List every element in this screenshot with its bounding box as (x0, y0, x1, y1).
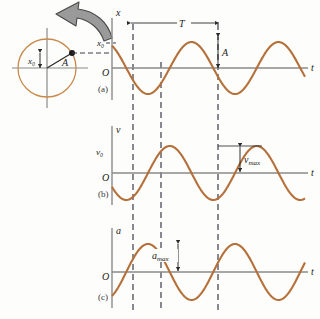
panel-c-origin-label: O (102, 271, 109, 282)
panel-a-x0-label: x₀ (96, 38, 104, 48)
shm-figure: A x₀ x t O x₀ T A (a) v t O (0, 0, 320, 319)
panel-b-y-label: v (116, 124, 121, 135)
panel-c-y-label: a (116, 225, 121, 236)
panel-b-caption: (b) (98, 189, 109, 199)
panel-c-x-label: t (311, 266, 314, 277)
phasor-label: A (61, 57, 69, 68)
amplitude-label: A (221, 47, 229, 58)
panel-b-v0-label: v₀ (96, 147, 103, 157)
x0-circle-label: x₀ (27, 56, 35, 66)
panel-a-origin-label: O (102, 67, 109, 78)
panel-a-x-label: t (311, 62, 314, 73)
panel-a-caption: (a) (98, 84, 108, 94)
panel-a-y-label: x (115, 7, 121, 18)
panel-b-origin-label: O (102, 172, 109, 183)
panel-c-caption: (c) (98, 292, 108, 302)
panel-b-x-label: t (311, 167, 314, 178)
